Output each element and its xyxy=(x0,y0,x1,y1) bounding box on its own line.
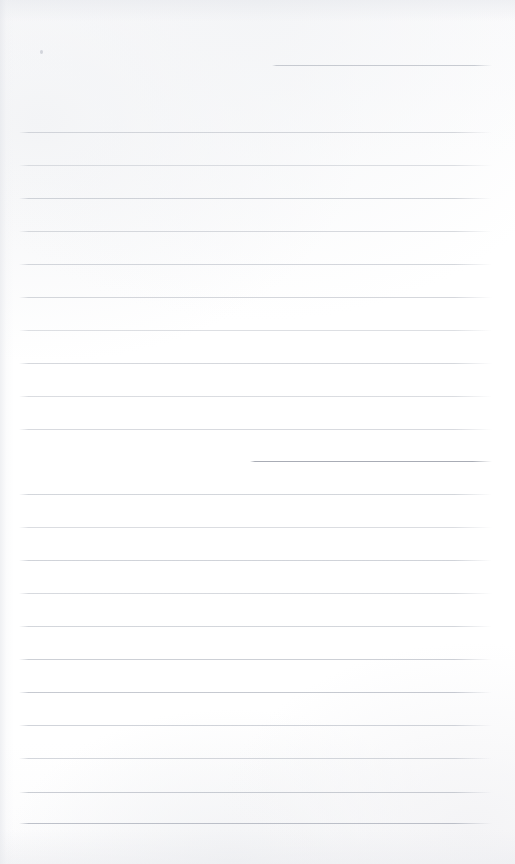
ruling-line xyxy=(19,363,492,364)
ruling-line-ink xyxy=(19,758,492,759)
ruling-line xyxy=(19,132,492,133)
scan-edge-left xyxy=(0,0,14,864)
scanned-page xyxy=(0,0,515,864)
ruling-line-ink xyxy=(19,132,492,133)
ruling-line-partial xyxy=(272,65,492,66)
ruling-line xyxy=(19,593,492,594)
ruling-line-ink xyxy=(272,65,492,66)
ruling-line xyxy=(19,626,492,627)
ruling-line xyxy=(19,725,492,726)
ruling-line-ink xyxy=(19,659,492,660)
ruling-line-ink xyxy=(19,429,492,430)
ruling-line-ink xyxy=(19,593,492,594)
ruling-line-partial xyxy=(250,461,492,462)
ruling-line xyxy=(19,264,492,265)
ruling-line-ink xyxy=(19,330,492,331)
scan-edge-top xyxy=(0,0,515,22)
ruling-line-ink xyxy=(19,363,492,364)
ruling-line-ink xyxy=(19,231,492,232)
ruling-line-ink xyxy=(19,823,492,824)
ruling-line-ink xyxy=(19,626,492,627)
ruling-line xyxy=(19,792,492,793)
ruling-line-ink xyxy=(19,198,492,199)
ruling-line xyxy=(19,429,492,430)
ruling-line-ink xyxy=(19,396,492,397)
ruling-line xyxy=(19,198,492,199)
ruling-line-ink xyxy=(19,494,492,495)
ruling-line-ink xyxy=(19,297,492,298)
paper-background xyxy=(0,0,515,864)
ruling-line xyxy=(19,823,492,824)
ruling-line xyxy=(19,494,492,495)
ruling-line xyxy=(19,396,492,397)
dust-speck xyxy=(40,50,43,54)
scan-edge-bottom xyxy=(0,830,515,864)
ruling-line xyxy=(19,231,492,232)
ruling-line-ink xyxy=(19,560,492,561)
ruling-line xyxy=(19,330,492,331)
ruling-line-ink xyxy=(19,527,492,528)
ruling-line-ink xyxy=(19,725,492,726)
ruling-line xyxy=(19,560,492,561)
ruling-line xyxy=(19,692,492,693)
ruling-line xyxy=(19,758,492,759)
ruling-line xyxy=(19,165,492,166)
ruling-line-ink xyxy=(19,792,492,793)
ruling-line xyxy=(19,527,492,528)
ruling-line-ink xyxy=(19,692,492,693)
ruling-line-ink xyxy=(19,165,492,166)
ruling-line-ink xyxy=(19,264,492,265)
ruling-line xyxy=(19,659,492,660)
ruling-line xyxy=(19,297,492,298)
ruling-line-ink xyxy=(250,461,492,462)
